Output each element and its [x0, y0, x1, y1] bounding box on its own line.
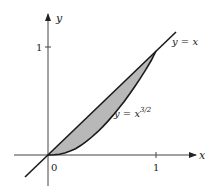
power-curve-label-base: y = x: [113, 108, 140, 119]
line-label: y = x: [171, 36, 198, 47]
x-axis-label: x: [199, 149, 206, 162]
y-tick-label-1: 1: [36, 42, 42, 53]
power-curve-label-exponent: 3/2: [140, 106, 152, 114]
origin-label: 0: [51, 162, 57, 173]
power-curve-label: y = x3/2: [113, 106, 152, 119]
area-between-curves-diagram: y x 1 1 0 y = x y = x3/2: [0, 0, 211, 192]
y-axis-label: y: [55, 12, 63, 25]
x-tick-label-1: 1: [153, 162, 159, 173]
